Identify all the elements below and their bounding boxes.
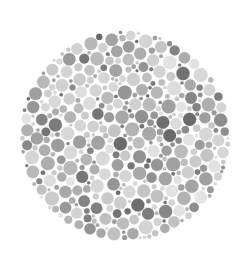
ishihara-plate-canvas: [0, 0, 250, 261]
ishihara-plate-stage: [0, 0, 250, 261]
